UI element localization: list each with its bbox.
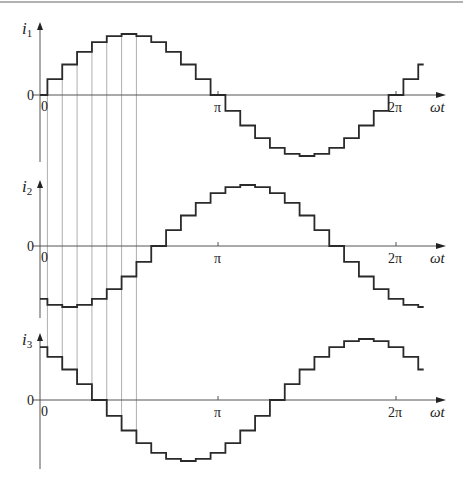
x-tick-2pi: 2π bbox=[388, 100, 402, 115]
x-axis-label: ωt bbox=[430, 404, 446, 420]
x-axis-label: ωt bbox=[430, 250, 446, 266]
y-zero-label: 0 bbox=[27, 239, 34, 254]
x-tick-2pi: 2π bbox=[388, 405, 402, 420]
y-axis-label-i2: i2 bbox=[22, 177, 32, 197]
waveform-panels: i100π2πωti200π2πωti300π2πωt bbox=[22, 19, 446, 469]
three-phase-staircase-diagram: i100π2πωti200π2πωti300π2πωt bbox=[0, 0, 468, 492]
x-tick-pi: π bbox=[214, 100, 221, 115]
y-axis-label-i3: i3 bbox=[22, 330, 33, 350]
x-axis-label: ωt bbox=[430, 99, 446, 115]
x-axis-arrow-icon bbox=[436, 243, 446, 249]
panel-i2: i200π2πωt bbox=[22, 177, 446, 318]
y-axis-arrow-icon bbox=[37, 22, 43, 30]
y-zero-label: 0 bbox=[27, 393, 34, 408]
x-origin-label: 0 bbox=[41, 99, 48, 114]
y-axis-arrow-icon bbox=[37, 180, 43, 188]
y-zero-label: 0 bbox=[27, 88, 34, 103]
x-tick-2pi: 2π bbox=[388, 251, 402, 266]
x-axis-arrow-icon bbox=[436, 92, 446, 98]
x-axis-arrow-icon bbox=[436, 397, 446, 403]
x-tick-pi: π bbox=[214, 251, 221, 266]
x-tick-pi: π bbox=[214, 405, 221, 420]
x-origin-label: 0 bbox=[41, 250, 48, 265]
y-axis-arrow-icon bbox=[37, 333, 43, 341]
x-origin-label: 0 bbox=[41, 404, 48, 419]
panel-i3: i300π2πωt bbox=[22, 330, 446, 469]
y-axis-label-i1: i1 bbox=[22, 19, 32, 39]
panel-i1: i100π2πωt bbox=[22, 19, 446, 162]
